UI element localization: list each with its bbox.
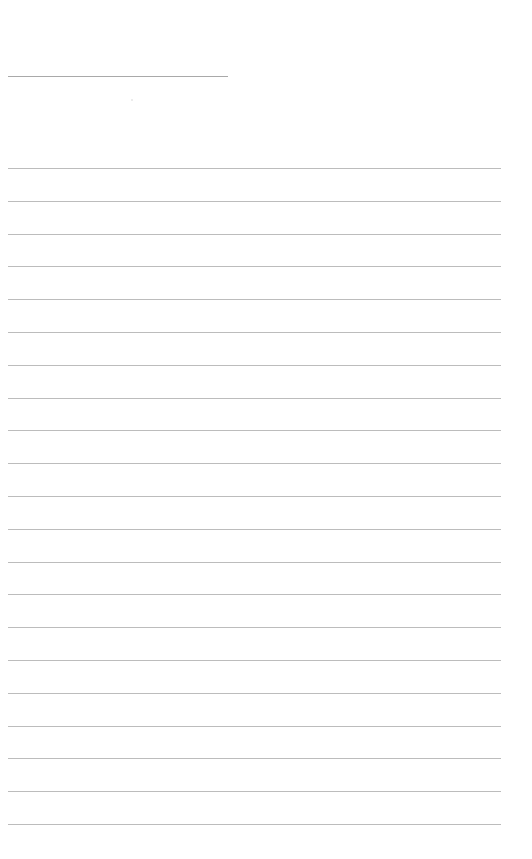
- ruled-line: [8, 299, 501, 300]
- ruled-line: [8, 201, 501, 202]
- ruled-line: [8, 332, 501, 333]
- ruled-line: [8, 562, 501, 563]
- ruled-line: [8, 168, 501, 169]
- ruled-line: [8, 266, 501, 267]
- ruled-line: [8, 758, 501, 759]
- ruled-line: [8, 660, 501, 661]
- paper-speck: [131, 99, 133, 101]
- ruled-line: [8, 529, 501, 530]
- title-line: [8, 76, 228, 77]
- ruled-line: [8, 496, 501, 497]
- ruled-line: [8, 594, 501, 595]
- ruled-line: [8, 430, 501, 431]
- ruled-line: [8, 365, 501, 366]
- ruled-line: [8, 234, 501, 235]
- ruled-line: [8, 791, 501, 792]
- ruled-line: [8, 693, 501, 694]
- ruled-line: [8, 398, 501, 399]
- ruled-line: [8, 824, 501, 825]
- ruled-line: [8, 463, 501, 464]
- ruled-line: [8, 627, 501, 628]
- ruled-line: [8, 726, 501, 727]
